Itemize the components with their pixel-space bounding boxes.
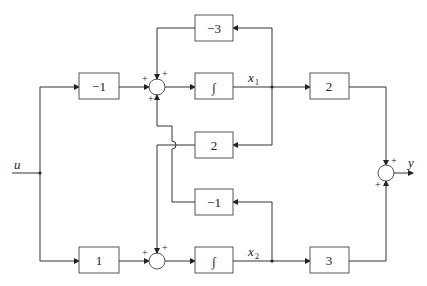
- svg-text:+: +: [162, 68, 168, 79]
- output-gain-block-bottom: 3: [310, 247, 349, 273]
- svg-text:−3: −3: [207, 21, 221, 36]
- block-diagram: u −1 1 + + + + + ∫ ∫ x 1: [0, 0, 427, 286]
- neg1-to-sum1: [157, 95, 195, 202]
- output-label: y: [406, 155, 414, 170]
- feedback-block-neg1: −1: [195, 189, 233, 215]
- svg-text:x: x: [247, 70, 254, 85]
- svg-text:1: 1: [255, 78, 259, 87]
- gain-block-top: −1: [79, 73, 119, 99]
- svg-text:−1: −1: [207, 195, 221, 210]
- svg-text:1: 1: [96, 253, 103, 268]
- svg-text:2: 2: [326, 79, 333, 94]
- svg-text:2: 2: [255, 252, 259, 261]
- svg-text:+: +: [142, 73, 148, 84]
- svg-text:+: +: [391, 155, 397, 166]
- svg-text:+: +: [375, 179, 381, 190]
- svg-text:−1: −1: [92, 79, 106, 94]
- svg-text:+: +: [148, 93, 154, 104]
- integrator-block-1: ∫: [195, 73, 233, 99]
- fb2-to-sum2: [157, 145, 195, 253]
- input-label: u: [14, 157, 21, 172]
- svg-text:x: x: [247, 244, 254, 259]
- svg-text:+: +: [142, 247, 148, 258]
- x1-label: x 1: [247, 70, 259, 87]
- summing-junction-1: + + +: [142, 68, 168, 104]
- x2-label: x 2: [247, 244, 259, 261]
- svg-text:3: 3: [326, 253, 333, 268]
- integrator-block-2: ∫: [195, 247, 233, 273]
- svg-text:+: +: [162, 242, 168, 253]
- svg-text:2: 2: [211, 138, 218, 153]
- gain-block-bottom: 1: [79, 247, 119, 273]
- feedback-block-neg3: −3: [195, 15, 233, 41]
- out-bottom-to-sum: [349, 181, 386, 261]
- output-gain-block-top: 2: [310, 73, 349, 99]
- summing-junction-2: + +: [142, 242, 168, 269]
- feedback-block-2: 2: [195, 132, 233, 158]
- out-top-to-sum: [349, 87, 386, 165]
